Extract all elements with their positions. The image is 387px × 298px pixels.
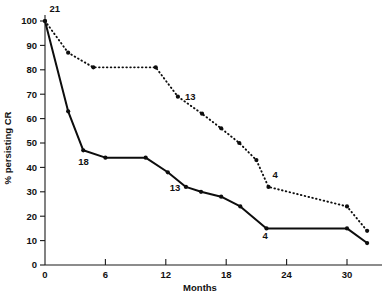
y-axis-tick-label: 60	[26, 113, 37, 124]
data-point	[184, 185, 188, 189]
y-axis-tick-label: 50	[26, 137, 37, 148]
y-axis: 0102030405060708090100	[21, 15, 45, 270]
y-axis-tick-label: 0	[32, 259, 37, 270]
series-line-dotted-curve	[45, 21, 367, 231]
x-axis-tick-label: 18	[221, 269, 232, 280]
y-axis-tick-label: 30	[26, 186, 37, 197]
data-point	[43, 19, 47, 23]
x-axis-title: Months	[183, 282, 217, 293]
data-point	[199, 190, 203, 194]
data-point	[254, 158, 258, 162]
annotation-label: 4	[273, 169, 279, 180]
point-count-annotations: 2113418134	[50, 3, 279, 241]
x-axis-tick-label: 6	[103, 269, 108, 280]
annotation-label: 18	[78, 156, 89, 167]
y-axis-tick-label: 90	[26, 40, 37, 51]
data-point	[176, 95, 180, 99]
data-point	[266, 185, 270, 189]
annotation-label: 13	[170, 182, 181, 193]
annotation-label: 4	[262, 230, 268, 241]
series-line-solid-curve	[45, 21, 367, 243]
data-point	[365, 241, 369, 245]
annotation-label: 13	[185, 91, 196, 102]
y-axis-tick-label: 70	[26, 89, 37, 100]
annotation-label: 21	[50, 3, 61, 14]
chart-container: 0102030405060708090100 0612182430 211341…	[0, 0, 387, 298]
y-axis-tick-label: 100	[21, 15, 37, 26]
data-point	[81, 148, 85, 152]
data-point	[365, 229, 369, 233]
data-point	[154, 65, 158, 69]
y-axis-tick-label: 20	[26, 211, 37, 222]
data-point	[91, 65, 95, 69]
line-chart: 0102030405060708090100 0612182430 211341…	[0, 0, 387, 298]
data-point	[238, 204, 242, 208]
x-axis-tick-label: 24	[281, 269, 292, 280]
data-point	[66, 51, 70, 55]
data-point	[345, 204, 349, 208]
x-axis-tick-label: 30	[342, 269, 353, 280]
y-axis-title: % persisting CR	[2, 111, 13, 184]
data-markers-group	[43, 19, 369, 245]
x-axis-tick-label: 12	[161, 269, 172, 280]
data-series-group	[45, 21, 367, 243]
y-axis-tick-label: 80	[26, 64, 37, 75]
data-point	[219, 195, 223, 199]
data-point	[166, 170, 170, 174]
y-axis-tick-label: 40	[26, 162, 37, 173]
data-point	[200, 112, 204, 116]
data-point	[144, 156, 148, 160]
x-axis: 0612182430	[42, 259, 382, 280]
y-axis-tick-label: 10	[26, 235, 37, 246]
x-axis-tick-label: 0	[42, 269, 47, 280]
data-point	[345, 226, 349, 230]
data-point	[237, 141, 241, 145]
data-point	[66, 109, 70, 113]
data-point	[219, 126, 223, 130]
data-point	[103, 156, 107, 160]
